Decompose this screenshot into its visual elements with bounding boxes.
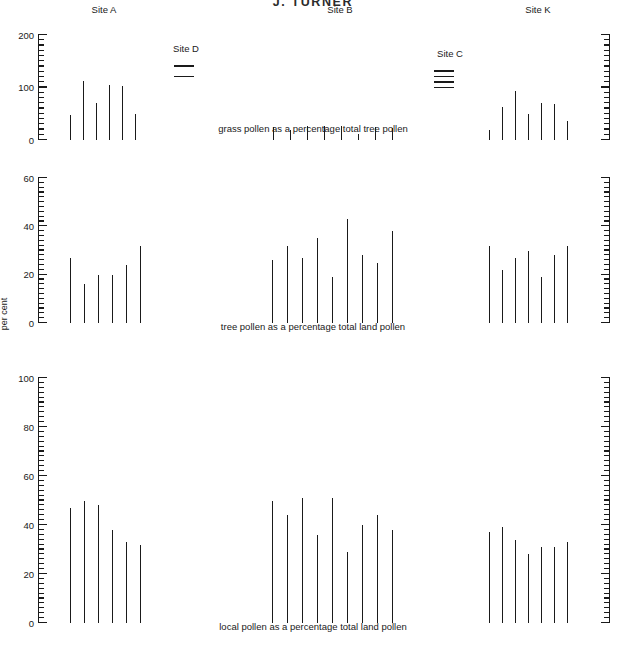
bar [112,275,113,323]
axis-tick-minor [604,50,610,51]
bar [567,542,568,623]
axis-tick-minor [604,206,610,207]
bar [84,501,85,624]
axis-tick-minor [604,416,610,417]
axis-tick-minor [604,480,610,481]
bar [528,251,529,324]
axis-tick-minor [38,460,44,461]
axis-tick-minor [604,382,610,383]
chart-panel-tree-pollen: 0204060per centSite ASite BSite Ktree po… [0,168,626,323]
axis-tick-minor [604,182,610,183]
site-label-site-k: Site K [525,4,550,15]
axis-tick-major [601,573,610,574]
bar-group-site-k [489,378,568,623]
axis-tick-minor [604,65,610,66]
axis-tick-label: 40 [23,222,34,232]
axis-tick-minor [38,392,44,393]
axis-tick-minor [604,597,610,598]
axis-tick-minor [604,254,610,255]
axis-tick-minor [604,529,610,530]
bar-group-site-k [489,178,568,323]
axis-tick-minor [38,397,44,398]
axis-spine [609,378,610,623]
axis-tick-minor [38,450,44,451]
axis-tick-minor [604,583,610,584]
axis-tick-minor [604,249,610,250]
axis-tick-minor [604,201,610,202]
axis-tick-minor [604,544,610,545]
axis-tick-major [601,225,610,226]
bar [515,540,516,623]
axis-tick-label: 20 [23,569,34,579]
axis-tick-minor [604,568,610,569]
bar-group-site-b [272,378,393,623]
axis-tick-minor [604,490,610,491]
axis-tick-minor [604,534,610,535]
axis-tick-minor [604,421,610,422]
axis-tick-minor [604,71,610,72]
bar [84,284,85,323]
chart-panel-local-pollen: 020406080100Site ASite BSite Klocal poll… [0,368,626,623]
axis-tick-minor [604,269,610,270]
axis-tick-label: 40 [23,520,34,530]
axis-tick-minor [604,387,610,388]
axis-tick-major [38,475,47,476]
axis-tick-minor [38,264,44,265]
axis-tick-minor [604,245,610,246]
axis-tick-minor [38,553,44,554]
axis-tick-minor [38,182,44,183]
bar [362,255,363,323]
axis-tick-minor [604,617,610,618]
axis-tick-minor [604,446,610,447]
axis-tick-minor [604,230,610,231]
axis-tick-minor [38,387,44,388]
bar [98,275,99,323]
axis-tick-label: 0 [29,135,34,145]
axis-tick-major [38,34,47,35]
axis-tick-minor [38,240,44,241]
dash-mark [434,76,454,78]
panel-caption: tree pollen as a percentage total land p… [0,321,626,332]
bar [567,246,568,323]
axis-tick-minor [604,470,610,471]
axis-tick-minor [38,509,44,510]
axis-tick-minor [38,71,44,72]
axis-tick-minor [604,283,610,284]
dash-mark [434,87,454,89]
site-label-site-a: Site A [92,4,117,15]
axis-tick-minor [38,269,44,270]
bar [126,265,127,323]
axis-tick-label: 60 [23,471,34,481]
axis-tick-minor [604,607,610,608]
axis-tick-minor [604,397,610,398]
axis-tick-minor [604,455,610,456]
axis-tick-minor [38,81,44,82]
axis-tick-label: 20 [23,270,34,280]
bar [287,515,288,623]
axis-tick-minor [604,211,610,212]
axis-tick-minor [604,60,610,61]
axis-tick-minor [38,283,44,284]
bar [541,547,542,623]
axis-tick-minor [604,293,610,294]
axis-tick-minor [38,548,44,549]
bar [112,530,113,623]
axis-tick-minor [38,259,44,260]
axis-tick-minor [38,578,44,579]
bar [554,547,555,623]
bar-group-site-b [272,178,393,323]
axis-tick-minor [38,607,44,608]
bar [332,277,333,323]
axis-tick-major [38,225,47,226]
bar [358,134,359,140]
axis-spine [38,378,39,623]
axis-tick-major [38,377,47,378]
axis-tick-minor [38,206,44,207]
axis-tick-major [38,177,47,178]
bar [392,530,393,623]
site-label-site-b: Site B [327,4,352,15]
axis-tick-minor [604,539,610,540]
bar [515,258,516,323]
axis-tick-minor [604,81,610,82]
dash-marker-site-d [174,65,194,77]
